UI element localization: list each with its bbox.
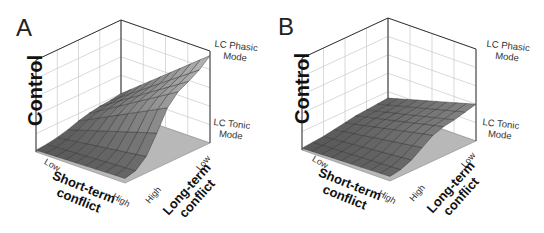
panel-b: B Control LC Phasic Mode LC Tonic Mode L… [272, 0, 544, 233]
lc-tonic-label: LC Tonic Mode [481, 116, 520, 142]
panel-a: A Control LC Phasic Mode LC Tonic Mode L… [0, 0, 272, 233]
z-axis-title: Control [24, 55, 47, 126]
panel-letter: B [278, 13, 294, 41]
z-axis-title: Control [291, 53, 314, 124]
lc-tonic-label: LC Tonic Mode [212, 116, 251, 142]
lc-phasic-label: LC Phasic Mode [213, 38, 258, 64]
panel-letter: A [16, 14, 32, 42]
lc-phasic-label: LC Phasic Mode [485, 38, 530, 64]
